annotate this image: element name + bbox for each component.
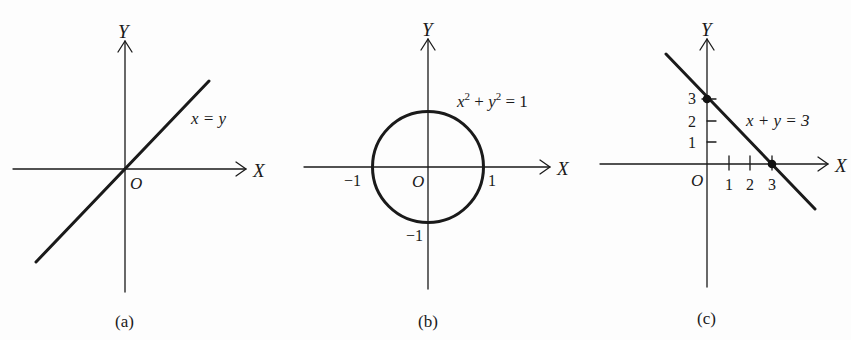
panel-b-curve-label-x-exp: 2 [465,90,471,102]
panel-a-curve-label: x = y [191,110,226,127]
panel-a-x-axis-label: X [253,161,265,180]
panel-b-curve-label-y: y [488,92,496,111]
panel-c-caption: (c) [697,310,716,327]
panel-c-curve-x-plus-y-eq-3 [666,54,815,209]
panel-c-y-tick-label-3: 3 [688,91,696,107]
panel-b-caption: (b) [418,313,438,330]
panel-c-y-tick-label-1: 1 [688,135,696,151]
panel-b-y-axis-label: Y [422,20,433,39]
panel-c-point-0-3 [703,95,712,104]
panel-a-origin-label: O [130,175,142,192]
panel-b-x-pos-tick-label: 1 [488,173,496,189]
panel-a-caption: (a) [115,313,134,330]
panel-c-curve-label: x + y = 3 [746,112,810,129]
panel-a-curve-x-eq-y [36,81,209,262]
panel-c-origin-label: O [691,172,703,189]
figure-canvas: Y X O x = y (a) Y X O x2 + y2 = 1 −1 1 −… [0,0,851,340]
panel-a-y-axis-label: Y [118,22,129,41]
panel-c-x-tick-label-3: 3 [768,177,776,193]
panel-c-graphics [600,39,828,287]
panel-b-curve-label: x2 + y2 = 1 [457,93,528,110]
figure-graphics [0,0,851,340]
panel-b-graphics [304,39,550,289]
panel-c-x-tick-label-1: 1 [725,177,733,193]
panel-c-x-axis-label: X [835,156,847,175]
panel-c-y-tick-label-2: 2 [688,114,696,130]
panel-c-x-tick-label-2: 2 [746,177,754,193]
panel-c-point-3-0 [768,160,777,169]
panel-a-graphics [13,41,246,292]
panel-b-curve-label-rhs: = 1 [501,92,528,111]
panel-b-curve-label-plus: + [474,92,488,111]
panel-c-y-axis-label: Y [701,20,712,39]
panel-b-origin-label: O [412,173,424,190]
panel-b-x-axis-label: X [557,159,569,178]
panel-b-y-neg-tick-label: −1 [406,228,423,244]
panel-b-curve-label-x: x [457,92,465,111]
panel-b-x-neg-tick-label: −1 [344,173,361,189]
